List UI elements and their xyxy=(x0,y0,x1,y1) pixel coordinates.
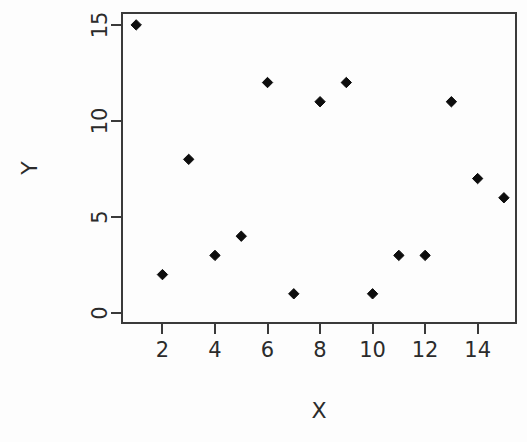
plot-canvas: 051015 2468101214 X Y xyxy=(0,0,527,442)
data-point xyxy=(394,250,404,260)
x-tick-label: 4 xyxy=(208,338,221,362)
x-tick-label: 10 xyxy=(359,338,386,362)
y-tick-label: 5 xyxy=(88,210,112,223)
data-point xyxy=(499,193,509,203)
data-point xyxy=(341,77,351,87)
x-tick-label: 6 xyxy=(261,338,274,362)
y-tick-label: 0 xyxy=(88,306,112,319)
data-point xyxy=(131,20,141,30)
x-axis-title: X xyxy=(311,398,326,423)
data-point xyxy=(420,250,430,260)
data-point xyxy=(184,154,194,164)
data-point xyxy=(262,77,272,87)
data-point-series xyxy=(131,20,509,299)
data-point xyxy=(472,173,482,183)
y-axis-title: Y xyxy=(17,161,42,176)
y-tick-label: 10 xyxy=(88,108,112,135)
y-axis-ticks: 051015 xyxy=(88,12,122,320)
x-tick-label: 8 xyxy=(313,338,326,362)
x-tick-label: 12 xyxy=(412,338,439,362)
data-point xyxy=(367,289,377,299)
data-point xyxy=(289,289,299,299)
x-axis-ticks: 2468101214 xyxy=(156,323,491,362)
plot-frame xyxy=(122,13,516,323)
x-tick-label: 2 xyxy=(156,338,169,362)
data-point xyxy=(446,97,456,107)
y-tick-label: 15 xyxy=(88,12,112,39)
data-point xyxy=(236,231,246,241)
data-point xyxy=(157,269,167,279)
data-point xyxy=(210,250,220,260)
scatter-plot-figure: 051015 2468101214 X Y xyxy=(0,0,527,442)
data-point xyxy=(315,97,325,107)
x-tick-label: 14 xyxy=(464,338,491,362)
